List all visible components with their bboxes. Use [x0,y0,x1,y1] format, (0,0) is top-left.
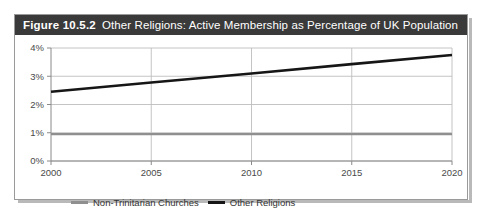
y-tick-label: 1% [30,127,44,138]
x-tick-label: 2005 [141,167,162,178]
x-axis-tick-labels: 20002005201020152020 [40,167,462,178]
x-tick-label: 2020 [441,167,462,178]
figure-frame-shadow-right [469,18,472,202]
y-tick-label: 0% [30,155,44,166]
line-chart-svg: 0%1%2%3%4% 20002005201020152020 [15,35,469,201]
y-tick-label: 3% [30,71,44,82]
y-axis-tick-labels: 0%1%2%3%4% [30,42,44,166]
legend-item-non-trinitarian-churches: Non-Trinitarian Churches [71,198,199,208]
x-tick-label: 2000 [40,167,61,178]
x-tick-label: 2010 [241,167,262,178]
chart-plot-area: 0%1%2%3%4% 20002005201020152020 Non-Trin… [15,35,467,199]
figure-title-bar: Figure 10.5.2 Other Religions: Active Me… [15,15,467,35]
figure-frame: Figure 10.5.2 Other Religions: Active Me… [14,14,468,200]
legend-item-other-religions: Other Religions [208,198,295,208]
legend-label-non-trinitarian: Non-Trinitarian Churches [93,198,199,208]
gridlines-group [51,48,452,161]
y-tick-label: 4% [30,42,44,53]
chart-legend: Non-Trinitarian Churches Other Religions [71,198,295,208]
axis-ticks-group [47,48,452,165]
figure-caption-text: Other Religions: Active Membership as Pe… [102,19,458,31]
figure-number-label: Figure 10.5.2 [23,19,96,31]
legend-swatch-icon-other-religions [208,201,225,204]
legend-swatch-icon-non-trinitarian [71,201,88,204]
legend-label-other-religions: Other Religions [230,198,295,208]
y-tick-label: 2% [30,99,44,110]
x-tick-label: 2015 [341,167,362,178]
